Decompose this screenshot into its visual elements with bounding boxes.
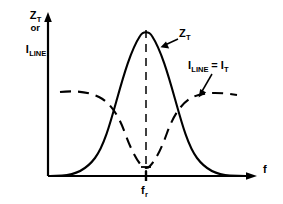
y-axis-label-iline: ILINE xyxy=(6,40,46,57)
y-axis-label-or: or xyxy=(6,23,46,40)
iline-curve-label: ILINE = IT xyxy=(188,56,228,72)
zt-leader-arrowhead xyxy=(161,41,170,48)
zt-curve-label: ZT xyxy=(179,24,190,40)
y-axis-label-zt: ZT xyxy=(6,6,46,23)
iline-leader-line xyxy=(199,74,212,97)
y-axis-label: ZT or ILINE xyxy=(6,6,46,57)
x-axis-arrowhead xyxy=(246,172,257,180)
resonance-frequency-label: fr xyxy=(141,181,148,197)
zt-solid-curve xyxy=(50,32,246,176)
resonance-curve-figure: ZT or ILINE ZT ILINE = IT fr f xyxy=(0,0,283,204)
x-axis-label: f xyxy=(263,160,267,176)
zt-leader-line xyxy=(161,39,179,49)
iline-dashed-curve xyxy=(60,91,237,167)
